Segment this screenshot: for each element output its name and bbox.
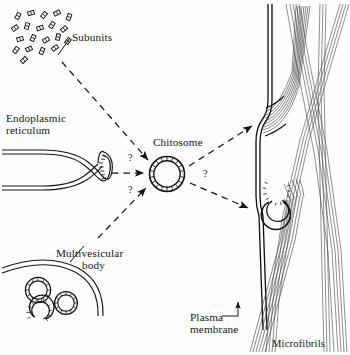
microfibril-bundle-cross	[266, 4, 349, 352]
label-mvb-line1: Multivesicular	[56, 247, 123, 259]
chitosome	[150, 157, 185, 192]
subunits-cluster	[11, 10, 71, 64]
leader-subunits	[58, 38, 70, 55]
label-er-line2: reticulum	[6, 124, 50, 136]
label-chitosome: Chitosome	[153, 136, 203, 148]
arrow-chitosome-to-vesicle-lower	[190, 183, 248, 208]
label-mvb-line2: body	[82, 259, 160, 271]
question-mark-right: ?	[203, 168, 208, 179]
figure-canvas: Subunits Endoplasmic reticulum Chitosome…	[0, 0, 350, 355]
arrow-mvb-to-chitosome	[98, 188, 146, 238]
diagram-svg	[0, 0, 350, 355]
question-mark-upper-left: ?	[128, 152, 133, 163]
label-leader-lines	[58, 38, 238, 316]
microfibril-bundle-right-a	[286, 4, 347, 352]
label-multivesicular-body: Multivesicular body	[56, 247, 160, 272]
arrow-subunits-to-chitosome	[62, 62, 148, 160]
mvb-vesicle-2	[55, 292, 78, 315]
pathway-arrows	[62, 62, 252, 238]
mvb-vesicle-1	[25, 277, 50, 302]
label-plasma-membrane: Plasma membrane	[190, 311, 268, 336]
microfibril-bundles	[250, 4, 349, 352]
label-plasma-line2: membrane	[190, 323, 238, 335]
question-mark-lower-left: ?	[128, 184, 133, 195]
endoplasmic-reticulum	[2, 150, 112, 190]
label-subunits: Subunits	[72, 31, 112, 43]
label-er-line1: Endoplasmic	[6, 112, 66, 124]
label-microfibrils: Microfibrils	[272, 338, 325, 350]
label-plasma-line1: Plasma	[190, 311, 223, 323]
label-endoplasmic-reticulum: Endoplasmic reticulum	[6, 112, 92, 137]
plasma-membrane	[256, 4, 272, 330]
